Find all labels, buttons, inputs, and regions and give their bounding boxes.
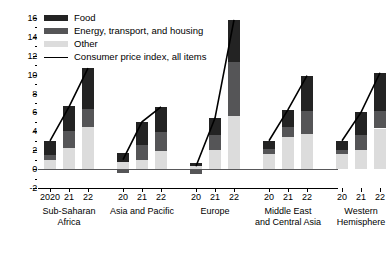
y-axis-minor-tick [35, 160, 37, 161]
y-axis-minor-tick [35, 103, 37, 104]
x-axis-year-label: 21 [210, 192, 220, 202]
cpi-line [123, 107, 161, 160]
bar-segment-food [374, 73, 386, 111]
x-axis-year-label: 22 [229, 192, 239, 202]
x-axis-line [38, 188, 338, 189]
x-axis-year-label: 22 [83, 192, 93, 202]
cpi-line [269, 76, 307, 141]
x-axis-year-label: 22 [375, 192, 385, 202]
plot-area: -20246810121416 [38, 18, 338, 188]
cpi-line [50, 68, 88, 141]
y-axis-minor-tick [35, 84, 37, 85]
y-axis-tick-mark [33, 56, 37, 57]
y-axis-tick-mark [33, 37, 37, 38]
y-axis-minor-tick [35, 27, 37, 28]
x-axis-year-label: 21 [356, 192, 366, 202]
x-axis-year-label: 21 [283, 192, 293, 202]
y-axis-tick-mark [33, 188, 37, 189]
x-axis-year-label: 22 [302, 192, 312, 202]
y-axis-tick-mark [33, 18, 37, 19]
x-axis-year-label: 20 [191, 192, 201, 202]
x-axis-group-label: Hemisphere [337, 217, 386, 228]
bar-segment-other [355, 150, 367, 169]
y-axis-minor-tick [35, 179, 37, 180]
x-axis-group-label: Africa [57, 217, 80, 228]
x-axis-group-label: and Central Asia [255, 217, 321, 228]
y-axis-tick-mark [33, 131, 37, 132]
y-axis-minor-tick [35, 141, 37, 142]
x-axis-group-label: Sub-Saharan [42, 206, 95, 217]
x-axis-year-label: 20 [264, 192, 274, 202]
bar-segment-other [374, 129, 386, 170]
bar-segment-energy [374, 111, 386, 129]
y-axis-tick-mark [33, 94, 37, 95]
x-axis-year-label: 20 [118, 192, 128, 202]
x-axis-group-label: Asia and Pacific [110, 206, 174, 217]
x-axis-year-label: 21 [137, 192, 147, 202]
bar-segment-food [355, 112, 367, 135]
stacked-bar [374, 18, 386, 188]
x-axis-year-label: 21 [64, 192, 74, 202]
bar-segment-energy [355, 135, 367, 150]
y-axis-tick-mark [33, 75, 37, 76]
y-axis-minor-tick [35, 46, 37, 47]
x-axis-group-label: Western [344, 206, 377, 217]
x-axis-group-label: Europe [200, 206, 229, 217]
y-axis-minor-tick [35, 65, 37, 66]
x-axis-group-label: Middle East [264, 206, 311, 217]
x-axis-year-label: 22 [156, 192, 166, 202]
cpi-line [196, 20, 234, 166]
x-axis-year-label: 2020 [40, 192, 60, 202]
y-axis-tick-mark [33, 150, 37, 151]
x-axis-year-label: 20 [337, 192, 347, 202]
y-axis-tick-mark [33, 112, 37, 113]
y-axis-tick-mark [33, 169, 37, 170]
cpi-line-series [38, 18, 338, 188]
y-axis-minor-tick [35, 122, 37, 123]
